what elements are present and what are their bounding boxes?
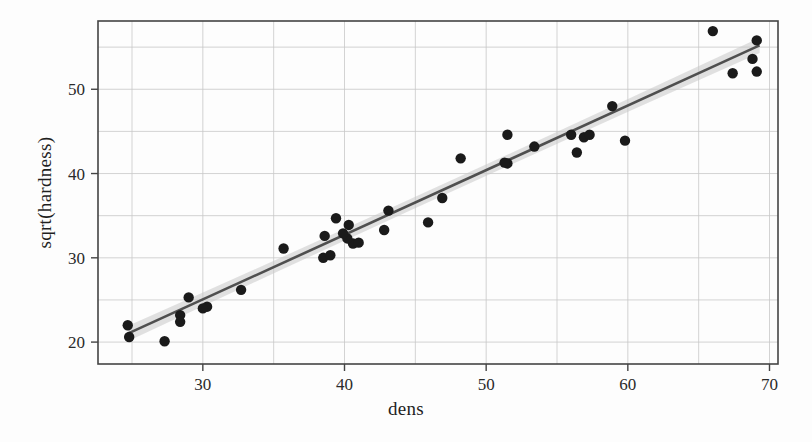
- data-point: [752, 66, 762, 76]
- data-point: [566, 130, 576, 140]
- data-point: [331, 213, 341, 223]
- data-point: [455, 153, 465, 163]
- data-point: [319, 231, 329, 241]
- data-point: [529, 141, 539, 151]
- data-point: [607, 101, 617, 111]
- data-point: [198, 303, 208, 313]
- scatter-plot: 304050607020304050: [0, 0, 812, 442]
- data-point: [584, 130, 594, 140]
- data-point: [502, 130, 512, 140]
- data-point: [124, 332, 134, 342]
- data-point: [175, 317, 185, 327]
- data-point: [620, 135, 630, 145]
- data-point: [747, 54, 757, 64]
- regression-line: [128, 45, 760, 333]
- x-tick-label: 70: [761, 375, 778, 394]
- y-tick-label: 20: [68, 333, 85, 352]
- tick-labels: 304050607020304050: [68, 80, 778, 394]
- data-point: [727, 68, 737, 78]
- y-axis-title: sqrt(hardness): [34, 137, 56, 249]
- data-point: [383, 205, 393, 215]
- data-point: [338, 228, 348, 238]
- data-point: [278, 243, 288, 253]
- data-point: [572, 147, 582, 157]
- data-point: [183, 292, 193, 302]
- x-tick-label: 30: [194, 375, 211, 394]
- data-point: [752, 35, 762, 45]
- fit-line: [128, 45, 760, 333]
- data-point: [159, 336, 169, 346]
- data-point: [708, 26, 718, 36]
- data-point: [379, 225, 389, 235]
- x-tick-label: 40: [336, 375, 353, 394]
- figure-canvas: 304050607020304050 dens sqrt(hardness): [0, 0, 812, 442]
- data-point: [325, 250, 335, 260]
- data-point: [423, 217, 433, 227]
- y-tick-label: 30: [68, 249, 85, 268]
- x-tick-label: 60: [619, 375, 636, 394]
- y-tick-label: 50: [68, 80, 85, 99]
- data-point: [437, 193, 447, 203]
- data-point: [499, 157, 509, 167]
- x-axis-title: dens: [0, 398, 812, 420]
- y-tick-label: 40: [68, 165, 85, 184]
- data-point: [236, 285, 246, 295]
- data-point: [123, 320, 133, 330]
- x-tick-label: 50: [478, 375, 495, 394]
- data-point: [353, 237, 363, 247]
